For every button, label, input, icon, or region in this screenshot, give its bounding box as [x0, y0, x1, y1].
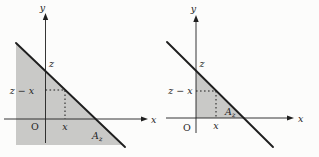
right-y-axis-arrow-icon [193, 15, 198, 22]
left-area-label-base: A [91, 130, 99, 141]
right-x-axis-label: x [298, 113, 304, 124]
left-x-axis-arrow-icon [141, 116, 148, 121]
right-guide-y-label: z − x [167, 85, 193, 96]
right-diagram: y x z z − x O x Az [166, 3, 304, 147]
diagram-canvas: y x z z − x O x Az y x z z − x [0, 0, 319, 157]
left-x-axis-label: x [151, 114, 157, 125]
left-origin-label: O [31, 121, 39, 132]
left-guide-x-label: x [62, 121, 68, 132]
right-origin-label: O [183, 122, 191, 133]
left-y-intercept-label: z [48, 58, 55, 69]
right-area-label-base: A [224, 106, 232, 117]
right-guide-x-label: x [213, 120, 219, 131]
left-area-label-sub: z [98, 135, 103, 143]
left-diagram: y x z z − x O x Az [4, 2, 157, 147]
left-y-axis-arrow-icon [43, 13, 48, 20]
right-x-axis-arrow-icon [287, 115, 294, 120]
right-y-axis-label: y [190, 3, 197, 14]
left-guide-y-label: z − x [9, 85, 35, 96]
right-area-label-sub: z [231, 111, 236, 119]
figure: y x z z − x O x Az y x z z − x [0, 0, 319, 157]
right-y-intercept-label: z [199, 58, 206, 69]
left-y-axis-label: y [39, 2, 46, 13]
